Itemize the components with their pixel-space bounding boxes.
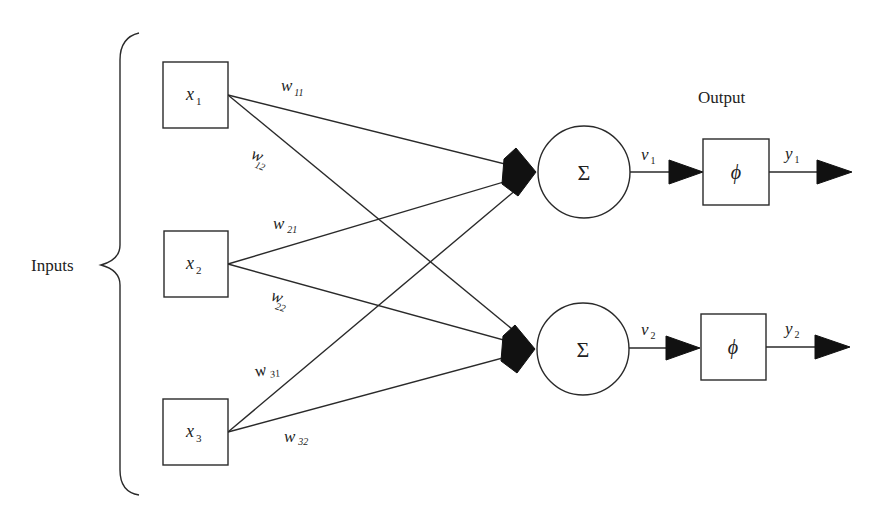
- input-x1-subscript: 1: [196, 95, 202, 107]
- activation-node-1: ϕ: [703, 139, 769, 205]
- weight-label-w32: w32: [284, 427, 308, 447]
- induced-field-label-v1: ν1: [641, 145, 656, 166]
- input-x2-symbol: x: [185, 253, 194, 273]
- weight-connections: [228, 95, 536, 432]
- activation-node-2: ϕ: [701, 314, 766, 380]
- connection-w32: [228, 351, 527, 432]
- sigma-symbol-2: Σ: [577, 337, 590, 362]
- output-label-y2: y2: [783, 319, 800, 340]
- arrowhead-v1: [669, 160, 703, 184]
- arrowhead-sum2: [501, 325, 535, 373]
- input-node-x3: x3: [163, 399, 228, 465]
- summing-node-1: Σ: [538, 126, 630, 218]
- arrowhead-y2: [815, 335, 850, 359]
- induced-field-label-v2: ν2: [641, 320, 656, 341]
- neural-network-diagram: Inputs Output x1 x2 x3 w11 w12 w21 w22 w…: [0, 0, 888, 515]
- output-label: Output: [698, 88, 746, 107]
- input-node-x2: x2: [164, 231, 228, 297]
- input-x2-subscript: 2: [196, 264, 202, 276]
- arrowhead-sum1: [502, 148, 536, 196]
- arrowhead-y1: [817, 160, 852, 184]
- weight-label-w21: w21: [273, 214, 297, 235]
- input-node-x1: x1: [163, 62, 228, 128]
- output-label-y1: y1: [783, 144, 800, 165]
- input-x3-subscript: 3: [196, 432, 202, 444]
- inputs-brace: [101, 33, 139, 495]
- weight-label-w11: w11: [281, 76, 304, 98]
- phi-symbol-1: ϕ: [731, 161, 741, 184]
- arrowhead-v2: [666, 336, 700, 360]
- weight-label-w22: w22: [267, 286, 291, 314]
- weight-label-w12: w12: [247, 144, 272, 173]
- summing-node-2: Σ: [537, 303, 629, 395]
- sigma-symbol-1: Σ: [578, 160, 591, 185]
- inputs-label: Inputs: [31, 256, 74, 275]
- weight-label-w31: w31: [253, 357, 281, 383]
- input-x1-symbol: x: [185, 84, 194, 104]
- phi-symbol-2: ϕ: [728, 336, 738, 359]
- input-x3-symbol: x: [185, 421, 194, 441]
